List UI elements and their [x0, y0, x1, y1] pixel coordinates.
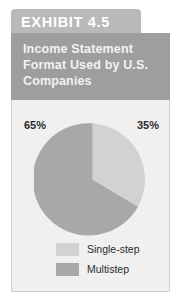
chart-panel: 65% 35% Single-step Multistep	[11, 100, 170, 292]
pie-label-multistep: 65%	[24, 120, 46, 131]
pie-chart-svg	[34, 121, 151, 238]
exhibit-title-block: Income Statement Format Used by U.S. Com…	[11, 33, 170, 100]
legend-item-single-step: Single-step	[56, 242, 140, 256]
pie-chart: 65% 35%	[12, 100, 169, 240]
exhibit-card: EXHIBIT 4.5 Income Statement Format Used…	[0, 0, 182, 303]
legend-label-single-step: Single-step	[87, 244, 140, 255]
pie-label-single-step: 35%	[137, 120, 159, 131]
legend-swatch-single-step	[56, 243, 79, 256]
legend-item-multistep: Multistep	[56, 262, 129, 276]
legend-swatch-multistep	[56, 263, 79, 276]
exhibit-tab: EXHIBIT 4.5	[11, 9, 141, 35]
chart-legend: Single-step Multistep	[12, 242, 169, 282]
exhibit-title: Income Statement Format Used by U.S. Com…	[23, 41, 158, 89]
exhibit-tab-label: EXHIBIT 4.5	[21, 15, 110, 30]
legend-label-multistep: Multistep	[87, 264, 129, 275]
